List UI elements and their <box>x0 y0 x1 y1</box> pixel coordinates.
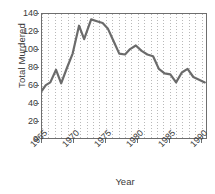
y-tick-mark <box>35 49 39 50</box>
plot-area <box>41 13 207 139</box>
x-axis-label: Year <box>40 176 210 187</box>
y-tick-mark <box>35 121 39 122</box>
y-tick-mark <box>35 85 39 86</box>
chart-figure: Total Murdered 020406080100120140 196519… <box>0 0 215 194</box>
data-line <box>42 14 207 139</box>
y-tick-mark <box>35 31 39 32</box>
y-tick-mark <box>35 67 39 68</box>
y-tick-mark <box>35 13 39 14</box>
y-tick-mark <box>35 103 39 104</box>
